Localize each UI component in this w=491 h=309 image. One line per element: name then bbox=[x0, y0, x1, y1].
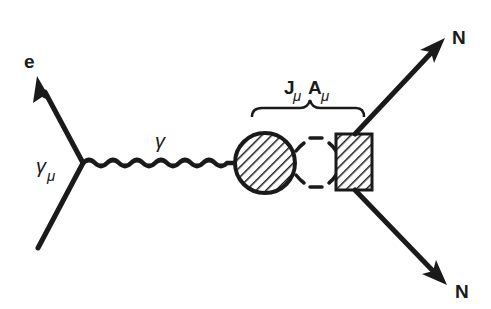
label-vertex-gamma-mu: γ μ bbox=[36, 155, 55, 184]
arrow-head-icon bbox=[33, 76, 52, 103]
hadronic-blob-circle bbox=[235, 133, 295, 193]
svg-text:μ: μ bbox=[292, 87, 301, 104]
svg-text:A: A bbox=[308, 77, 322, 98]
label-electron: e bbox=[24, 51, 35, 72]
label-interaction-current: J μ A μ bbox=[284, 77, 329, 104]
svg-text:γ: γ bbox=[36, 155, 47, 177]
label-nucleon-upper: N bbox=[452, 27, 466, 48]
outgoing-nucleon-lower bbox=[355, 190, 447, 285]
virtual-photon-wavy-line bbox=[83, 160, 234, 166]
svg-text:μ: μ bbox=[320, 87, 329, 104]
svg-text:μ: μ bbox=[46, 167, 55, 184]
interaction-brace bbox=[252, 100, 364, 117]
outgoing-nucleon-upper bbox=[355, 38, 445, 134]
outgoing-electron-arrow bbox=[33, 76, 83, 163]
feynman-diagram: e γ μ γ J μ A μ N N bbox=[0, 0, 491, 309]
label-photon: γ bbox=[155, 130, 166, 152]
label-nucleon-lower: N bbox=[455, 281, 469, 302]
nucleus-box bbox=[336, 134, 372, 190]
meson-loop-dashed bbox=[296, 138, 336, 187]
